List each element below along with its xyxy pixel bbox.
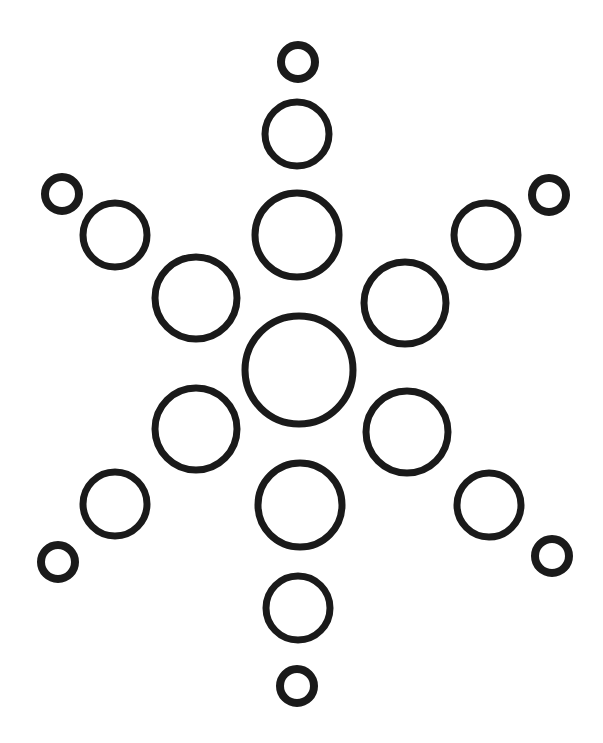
background	[0, 0, 603, 743]
snowflake-figure	[0, 0, 603, 743]
